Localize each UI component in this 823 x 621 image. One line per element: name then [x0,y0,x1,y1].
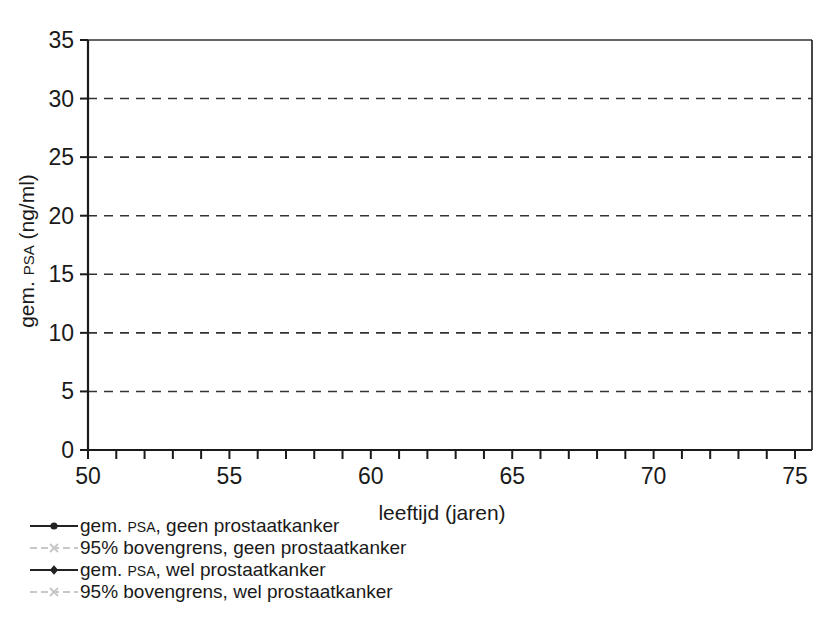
legend-item-bovengrens-geen: 95% bovengrens, geen prostaatkanker [28,537,528,559]
xtick-label-75: 75 [782,463,808,489]
legend-key-light-x-dashed-1 [28,537,80,559]
legend-item-bovengrens-wel: 95% bovengrens, wel prostaatkanker [28,581,528,603]
ytick-label-15: 15 [48,261,74,287]
legend-key-dark-circle-line [28,515,80,537]
xtick-label-65: 65 [499,463,525,489]
ytick-label-25: 25 [48,144,74,170]
ytick-label-5: 5 [61,378,74,404]
xtick-label-60: 60 [358,463,384,489]
chart-figure: 05101520253035505560657075leeftijd (jare… [0,0,823,621]
chart-legend: gem. PSA, geen prostaatkanker 95% boveng… [28,515,528,603]
legend-key-light-x-dashed-2 [28,581,80,603]
xtick-label-70: 70 [641,463,667,489]
y-axis-title-part-unit: (ng/ml) [15,174,38,245]
y-axis-title: gem. PSA (ng/ml) [15,174,38,328]
xtick-label-50: 50 [75,463,101,489]
y-axis-title-part-smallcaps: PSA [20,245,37,275]
legend-item-gem-psa-wel: gem. PSA, wel prostaatkanker [28,559,528,581]
legend-label-bovengrens-wel: 95% bovengrens, wel prostaatkanker [80,581,393,603]
ytick-label-35: 35 [48,27,74,53]
legend-label-bovengrens-geen: 95% bovengrens, geen prostaatkanker [80,537,406,559]
ytick-label-30: 30 [48,86,74,112]
ytick-label-10: 10 [48,320,74,346]
y-axis-title-part-main: gem. [15,275,38,328]
legend-key-dark-diamond-line [28,559,80,581]
legend-label-gem-psa-geen: gem. PSA, geen prostaatkanker [80,515,339,538]
ytick-label-0: 0 [61,437,74,463]
legend-item-gem-psa-geen: gem. PSA, geen prostaatkanker [28,515,528,537]
xtick-label-55: 55 [217,463,243,489]
ytick-label-20: 20 [48,203,74,229]
y-axis-title-text: gem. PSA (ng/ml) [15,174,38,328]
legend-label-gem-psa-wel: gem. PSA, wel prostaatkanker [80,559,326,582]
